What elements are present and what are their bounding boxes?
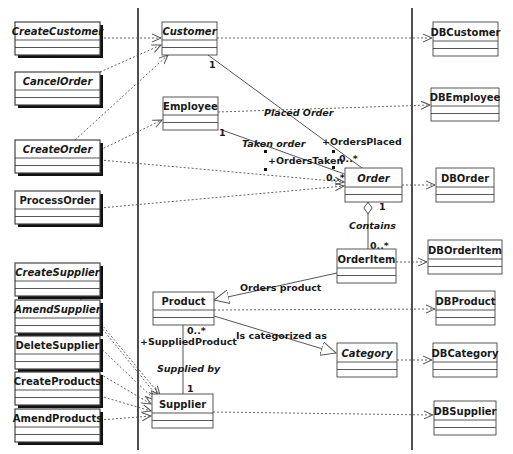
mult-supplier-1: 1 (187, 383, 194, 394)
class-name: AmendProducts (13, 413, 102, 424)
mult-orders-taken: 0..* (326, 172, 345, 183)
class-dborder-item[interactable]: DBOrderItem (428, 240, 502, 274)
class-name: CreateSupplier (15, 267, 101, 278)
label-orders-taken: +OrdersTaken (268, 155, 343, 166)
mult-product-many: 0..* (187, 325, 206, 336)
class-product[interactable]: Product (153, 292, 214, 325)
class-dbcategory[interactable]: DBCategory (431, 343, 499, 377)
class-dbsupplier[interactable]: DBSupplier (433, 401, 496, 435)
class-name: DBSupplier (433, 406, 496, 417)
mult-customer-1: 1 (209, 59, 216, 70)
class-name: DBOrderItem (428, 245, 502, 256)
label-placed-order: Placed Order (264, 107, 335, 118)
uml-diagram: Placed Order Taken order +OrdersPlaced +… (0, 0, 513, 454)
class-name: DBOrder (441, 173, 489, 184)
class-create-products[interactable]: CreateProducts (14, 372, 103, 408)
mult-employee-1: 1 (219, 127, 226, 138)
class-name: DBEmployee (430, 92, 501, 103)
class-delete-supplier[interactable]: DeleteSupplier (15, 336, 103, 372)
class-employee[interactable]: Employee (163, 97, 218, 130)
class-supplier[interactable]: Supplier (152, 394, 213, 428)
class-name: AmendSupplier (13, 304, 101, 315)
class-name: CancelOrder (23, 76, 94, 87)
class-name: CreateOrder (23, 144, 94, 155)
class-customer[interactable]: Customer (162, 22, 218, 55)
class-name: Product (161, 296, 205, 307)
mult-orders-placed: 0..* (339, 153, 358, 164)
class-name: OrderItem (337, 254, 395, 265)
class-cancel-order[interactable]: CancelOrder (15, 72, 103, 108)
class-name: CreateCustomer (12, 26, 105, 37)
class-name: DBCustomer (430, 27, 500, 38)
class-create-customer[interactable]: CreateCustomer (12, 22, 105, 58)
class-name: Order (357, 173, 390, 184)
class-create-supplier[interactable]: CreateSupplier (15, 263, 103, 299)
label-supplied-by: Supplied by (157, 363, 221, 374)
class-name: DBProduct (435, 296, 495, 307)
class-process-order[interactable]: ProcessOrder (15, 191, 103, 227)
class-name: CreateProducts (14, 376, 101, 387)
class-name: Customer (162, 26, 217, 37)
persistence-dependencies (213, 38, 435, 415)
label-contains: Contains (349, 220, 396, 231)
class-order-item[interactable]: OrderItem (337, 249, 396, 283)
class-name: Employee (163, 101, 218, 112)
class-dborder[interactable]: DBOrder (436, 168, 494, 202)
class-dbemployee[interactable]: DBEmployee (430, 88, 501, 121)
label-orders-placed: +OrdersPlaced (322, 136, 402, 147)
class-amend-supplier[interactable]: AmendSupplier (13, 300, 103, 336)
class-dbproduct[interactable]: DBProduct (435, 291, 495, 325)
label-orders-product: Orders product (240, 282, 322, 293)
class-dbcustomer[interactable]: DBCustomer (430, 22, 500, 56)
class-name: DeleteSupplier (15, 340, 99, 351)
class-boxes: CreateCustomerCancelOrderCreateOrderProc… (12, 22, 502, 445)
class-category[interactable]: Category (337, 343, 397, 377)
aggregation-diamond-icon (364, 202, 372, 214)
class-name: ProcessOrder (19, 195, 95, 206)
class-name: DBCategory (431, 348, 499, 359)
label-taken-order: Taken order (242, 138, 307, 149)
label-supplied-product: +SuppliedProduct (140, 336, 237, 347)
class-create-order[interactable]: CreateOrder (15, 140, 103, 176)
class-amend-products[interactable]: AmendProducts (13, 409, 103, 445)
mult-order-1: 1 (379, 201, 386, 212)
class-order[interactable]: Order (345, 168, 402, 202)
class-name: Supplier (159, 399, 206, 410)
class-name: Category (341, 348, 393, 359)
label-is-categorized-as: Is categorized as (236, 330, 327, 341)
